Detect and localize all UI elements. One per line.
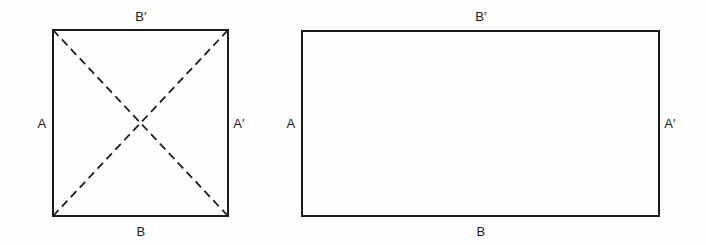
square-label-right: A′ [233, 117, 245, 130]
rectangle-label-right: A′ [664, 117, 676, 130]
rectangle-label-left: A [287, 117, 296, 130]
square-label-bottom: B [137, 225, 146, 238]
square-panel [53, 30, 228, 216]
rectangle-label-top: B′ [475, 10, 487, 23]
rectangle-label-bottom: B [477, 225, 486, 238]
square-label-left: A [38, 117, 47, 130]
figure-svg [0, 0, 706, 245]
rectangle-outline [302, 31, 659, 216]
square-label-top: B′ [135, 10, 147, 23]
rectangle-panel [302, 31, 659, 216]
figure-canvas: B′ A A′ B B′ A A′ B [0, 0, 706, 245]
